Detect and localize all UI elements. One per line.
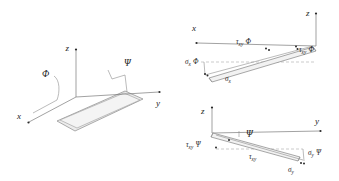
tau-xy-sub: xy	[251, 156, 257, 162]
tau-sub-right: xy	[301, 49, 307, 55]
sigma-phi-anchor-marker-2	[207, 75, 209, 77]
tau-factor-left: Φ	[245, 38, 251, 46]
tau-left-anchor-marker	[265, 48, 267, 50]
y-panel-y-axis-tip-marker	[319, 130, 321, 132]
z-axis-tip-marker	[75, 48, 77, 50]
y-panel-y-axis-label: y	[314, 116, 319, 126]
phi-angle-label: Φ	[42, 69, 49, 79]
y-axis-label: y	[155, 98, 160, 108]
x-panel-z-axis-label: z	[305, 8, 310, 18]
z-axis-label: z	[65, 43, 70, 53]
technical-diagram-figure: .ln{stroke:#7a7a7a;stroke-width:0.7;fill…	[0, 0, 339, 181]
x-panel-z-axis-tip-marker	[315, 12, 317, 14]
tau-right-anchor-marker	[295, 46, 297, 48]
x-axis-tip-marker	[27, 121, 29, 123]
sigma-phi-anchor-marker	[204, 73, 206, 75]
tau-psi-anchor-marker	[215, 147, 217, 149]
y-panel-z-axis-label: z	[200, 106, 205, 116]
tau-left-anchor-marker-2	[268, 49, 270, 51]
tau-right-anchor-marker-2	[297, 48, 299, 50]
x-axis-label: x	[16, 111, 21, 121]
tau-sub-left: xy	[238, 41, 244, 47]
sigma-phi-factor: Φ	[193, 58, 199, 66]
sigma-y-anchor-marker-2	[303, 163, 305, 165]
sigma-y-anchor-marker	[300, 162, 302, 164]
tau-factor-right: Φ	[308, 46, 314, 54]
x-panel-x-axis-tip-marker	[195, 42, 197, 44]
tau-psi-sub: xy	[188, 144, 194, 150]
y-axis-tip-marker	[158, 91, 160, 93]
x-panel-x-axis-label: x	[191, 23, 196, 33]
y-panel-z-axis-tip-marker	[211, 106, 213, 108]
tau-psi-anchor-marker-2	[228, 139, 230, 141]
